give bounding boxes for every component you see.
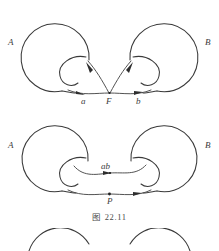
figure-panel-bottom: [0, 228, 219, 251]
label-path-b: b: [136, 97, 141, 106]
right-inner-loop-path: [133, 157, 159, 186]
lower-arc-left-path: [68, 190, 109, 195]
composite-path-ab-right-path: [110, 165, 146, 173]
figure-panel-middle: A B ab P: [0, 108, 219, 208]
diagram-top-svg: [0, 0, 219, 110]
base-point-P-marker: [108, 193, 111, 196]
left-circle-A-path: [22, 126, 88, 192]
figure-page: A B a F b: [0, 0, 219, 251]
label-left-circle-A-top: A: [8, 38, 14, 47]
label-right-circle-B-top: B: [205, 38, 211, 47]
composite-path-ab-marker: [109, 172, 111, 174]
label-base-point-P: P: [107, 197, 113, 206]
loop-a-upstroke-path: [88, 61, 109, 93]
diagram-bottom-svg: [0, 228, 219, 251]
label-composite-path-ab: ab: [101, 162, 110, 171]
figure-panel-top: A B a F b: [0, 0, 219, 110]
left-inner-loop-path: [60, 56, 86, 85]
label-path-a: a: [81, 97, 86, 106]
right-circle-B-path: [131, 126, 197, 192]
lower-arc-right-path: [109, 190, 151, 195]
left-circle-A-path: [21, 24, 89, 92]
loop-a-arrowhead: [86, 62, 93, 73]
diagram-middle-svg: [0, 108, 219, 208]
right-inner-loop-path: [133, 56, 159, 85]
bottom-left-arc-arrowhead: [76, 91, 85, 95]
loop-b-arrowhead: [126, 62, 133, 73]
label-right-circle-B-middle: B: [205, 141, 211, 150]
base-point-F-marker: [108, 92, 110, 94]
right-circle-B-path: [130, 24, 198, 92]
next-figure-left-arc-path: [29, 228, 89, 251]
figure-caption: 图 22.11: [0, 210, 219, 222]
loop-b-upstroke-path: [110, 61, 131, 93]
label-base-point-F: F: [106, 97, 112, 106]
next-figure-right-arc-path: [130, 228, 190, 251]
label-left-circle-A-middle: A: [8, 141, 14, 150]
